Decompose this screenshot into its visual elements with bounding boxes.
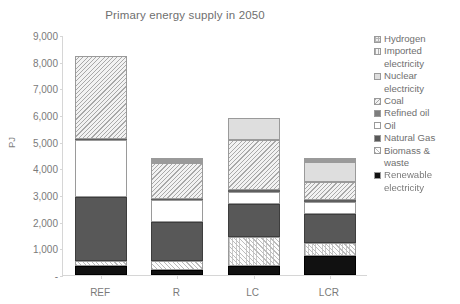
y-axis-tick-mark [60,116,63,117]
legend-label: Nuclear electricity [384,70,424,95]
bar-segment-hydrogen[interactable] [151,158,203,160]
y-axis-tick-label: - [55,271,58,282]
y-axis-tick-mark [60,63,63,64]
oil-swatch [374,122,381,129]
y-axis-tick-mark [60,249,63,250]
legend-item-biomass-waste[interactable]: Biomass & waste [374,145,460,170]
legend-item-refined-oil[interactable]: Refined oil [374,107,460,119]
bar-segment-biomass-waste[interactable] [75,261,127,266]
imported-electricity-swatch [374,48,381,55]
x-axis-label-r: R [146,287,206,298]
legend-label: Imported electricity [384,45,424,70]
chart-legend: HydrogenImported electricityNuclear elec… [374,33,460,194]
y-axis-tick-mark [60,36,63,37]
legend-item-nuclear-electricity[interactable]: Nuclear electricity [374,70,460,95]
legend-item-oil[interactable]: Oil [374,120,460,132]
bar-segment-hydrogen[interactable] [304,158,356,160]
y-axis-tick-mark [60,196,63,197]
coal-swatch [374,98,381,105]
primary-energy-chart: Primary energy supply in 2050 PJ -1,0002… [0,0,460,304]
bar-segment-oil[interactable] [228,192,280,204]
refined-oil-swatch [374,110,381,117]
y-axis-tick-label: 8,000 [33,57,58,68]
bar-segment-natural-gas[interactable] [228,204,280,237]
nuclear-electricity-swatch [374,73,381,80]
natural-gas-swatch [374,135,381,142]
legend-label: Natural Gas [384,132,435,144]
bar-segment-oil[interactable] [75,140,127,197]
legend-item-natural-gas[interactable]: Natural Gas [374,132,460,144]
legend-item-hydrogen[interactable]: Hydrogen [374,33,460,45]
x-axis-tick-mark [177,275,178,279]
bar-segment-refined-oil[interactable] [304,200,356,202]
hydrogen-swatch [374,36,381,43]
bar-segment-oil[interactable] [304,202,356,214]
bar-segment-biomass-waste[interactable] [151,261,203,270]
y-axis-title: PJ [6,137,17,148]
bar-segment-imported-electricity[interactable] [304,160,356,162]
y-axis-tick-mark [60,143,63,144]
bar-group-lc[interactable] [228,35,280,275]
plot-area: -1,0002,0003,0004,0005,0006,0007,0008,00… [62,36,367,276]
legend-item-imported-electricity[interactable]: Imported electricity [374,45,460,70]
legend-item-coal[interactable]: Coal [374,95,460,107]
x-axis-label-lcr: LCR [299,287,359,298]
bar-segment-imported-electricity[interactable] [151,160,203,162]
bar-segment-coal[interactable] [75,56,127,139]
y-axis-tick-label: 6,000 [33,111,58,122]
y-axis-tick-label: 7,000 [33,84,58,95]
stacked-bar[interactable] [304,35,356,275]
chart-title: Primary energy supply in 2050 [0,9,370,21]
y-axis-tick-mark [60,223,63,224]
bar-group-lcr[interactable] [304,35,356,275]
bar-segment-refined-oil[interactable] [228,190,280,192]
bar-segment-biomass-waste[interactable] [304,243,356,256]
bar-segment-nuclear-electricity[interactable] [228,118,280,140]
y-axis-tick-label: 4,000 [33,164,58,175]
y-axis-tick-label: 3,000 [33,191,58,202]
bar-group-r[interactable] [151,35,203,275]
bar-segment-coal[interactable] [304,182,356,200]
y-axis-tick-mark [60,89,63,90]
stacked-bar[interactable] [75,35,127,275]
y-axis-tick-label: 2,000 [33,217,58,228]
legend-label: Hydrogen [384,33,426,45]
y-axis-tick-label: 1,000 [33,244,58,255]
stacked-bar[interactable] [151,35,203,275]
bar-segment-coal[interactable] [228,140,280,190]
bar-segment-renewable-electricity[interactable] [304,256,356,275]
bar-segment-renewable-electricity[interactable] [75,266,127,275]
legend-label: Renewable electricity [384,169,432,194]
x-axis-tick-mark [254,275,255,279]
bar-group-ref[interactable] [75,35,127,275]
bar-segment-biomass-waste[interactable] [228,237,280,266]
biomass-waste-swatch [374,147,381,154]
legend-label: Biomass & waste [384,145,430,170]
legend-item-renewable-electricity[interactable]: Renewable electricity [374,169,460,194]
bar-segment-nuclear-electricity[interactable] [304,162,356,182]
x-axis-label-lc: LC [223,287,283,298]
bar-segment-natural-gas[interactable] [151,222,203,261]
y-axis-tick-label: 5,000 [33,137,58,148]
bar-segment-coal[interactable] [151,163,203,199]
legend-label: Coal [384,95,404,107]
bar-segment-oil[interactable] [151,200,203,221]
x-axis-tick-mark [330,275,331,279]
legend-label: Oil [384,120,396,132]
bar-segment-natural-gas[interactable] [304,214,356,243]
renewable-electricity-swatch [374,172,381,179]
stacked-bar[interactable] [228,35,280,275]
x-axis-tick-mark [101,275,102,279]
bar-segment-natural-gas[interactable] [75,197,127,260]
bar-segment-renewable-electricity[interactable] [228,266,280,275]
legend-label: Refined oil [384,107,429,119]
y-axis-tick-label: 9,000 [33,31,58,42]
x-axis-label-ref: REF [70,287,130,298]
y-axis-tick-mark [60,169,63,170]
y-axis-tick-mark [60,276,63,277]
